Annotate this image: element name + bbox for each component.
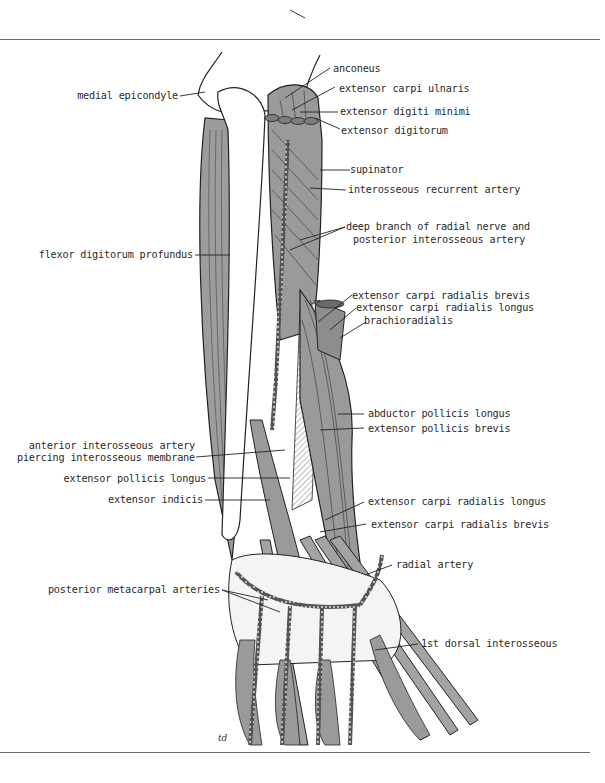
label-extensor-carpi-radialis-longus-lower: extensor carpi radialis longus <box>368 496 546 508</box>
label-piercing-interosseous-membrane: piercing interosseous membrane <box>10 452 195 464</box>
label-medial-epicondyle: medial epicondyle <box>50 90 178 102</box>
label-flexor-digitorum-profundus: flexor digitorum profundus <box>20 249 193 261</box>
label-anconeus: anconeus <box>333 63 380 75</box>
label-supinator: supinator <box>350 164 403 176</box>
label-interosseous-recurrent-artery: interosseous recurrent artery <box>348 184 520 196</box>
label-anterior-interosseous-artery: anterior interosseous artery <box>20 440 195 452</box>
label-extensor-carpi-ulnaris: extensor carpi ulnaris <box>339 83 470 95</box>
label-deep-branch-radial-nerve: deep branch of radial nerve and <box>346 221 530 233</box>
artist-signature: td <box>218 733 227 743</box>
label-abductor-pollicis-longus: abductor pollicis longus <box>368 408 510 420</box>
label-extensor-digitorum: extensor digitorum <box>341 125 448 137</box>
label-extensor-digiti-minimi: extensor digiti minimi <box>340 106 471 118</box>
label-posterior-metacarpal-arteries: posterior metacarpal arteries <box>20 584 220 596</box>
label-extensor-carpi-radialis-brevis-lower: extensor carpi radialis brevis <box>371 519 549 531</box>
label-extensor-pollicis-brevis: extensor pollicis brevis <box>368 423 510 435</box>
forearm-illustration <box>0 0 605 783</box>
label-first-dorsal-interosseous: 1st dorsal interosseous <box>421 638 557 650</box>
label-radial-artery: radial artery <box>396 559 473 571</box>
label-extensor-carpi-radialis-longus-upper: extensor carpi radialis longus <box>356 302 534 314</box>
label-extensor-indicis: extensor indicis <box>60 494 203 506</box>
label-posterior-interosseous-artery: posterior interosseous artery <box>353 234 525 246</box>
label-extensor-carpi-radialis-brevis-upper: extensor carpi radialis brevis <box>352 290 530 302</box>
label-brachioradialis: brachioradialis <box>364 315 453 327</box>
label-extensor-pollicis-longus: extensor pollicis longus <box>40 473 206 485</box>
